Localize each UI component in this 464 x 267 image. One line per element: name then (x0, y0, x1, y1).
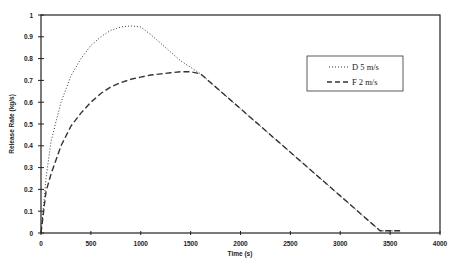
y-tick-label: 0.2 (24, 186, 33, 193)
y-tick-label: 0.9 (24, 33, 33, 40)
y-tick-label: 0.4 (24, 142, 33, 149)
plot-frame (41, 15, 440, 233)
plot-border (41, 15, 440, 233)
legend: D 5 m/s F 2 m/s (307, 56, 403, 91)
y-tick-label: 0 (29, 230, 33, 237)
x-tick-label: 4000 (433, 240, 448, 247)
x-tick-label: 2500 (283, 240, 298, 247)
y-tick-label: 0.1 (24, 208, 33, 215)
release-rate-chart: 00.10.20.30.40.50.60.70.80.91 0500100015… (0, 0, 464, 267)
y-axis-title: Release Rate (kg/s) (8, 94, 16, 154)
x-tick-label: 3500 (383, 240, 398, 247)
y-tick-label: 0.6 (24, 99, 33, 106)
y-tick-label: 0.5 (24, 121, 33, 128)
legend-label-f2: F 2 m/s (352, 77, 378, 87)
x-tick-label: 500 (85, 240, 96, 247)
legend-label-d5: D 5 m/s (352, 62, 379, 72)
x-tick-label: 0 (39, 240, 43, 247)
x-tick-label: 1500 (183, 240, 198, 247)
series-f-2ms-line (41, 72, 400, 233)
x-axis-title: Time (s) (228, 250, 253, 258)
y-tick-label: 0.3 (24, 164, 33, 171)
y-tick-label: 1 (29, 12, 33, 19)
x-tick-label: 1000 (134, 240, 149, 247)
y-tick-label: 0.7 (24, 77, 33, 84)
x-tick-label: 2000 (233, 240, 248, 247)
x-tick-label: 3000 (333, 240, 348, 247)
y-tick-label: 0.8 (24, 55, 33, 62)
